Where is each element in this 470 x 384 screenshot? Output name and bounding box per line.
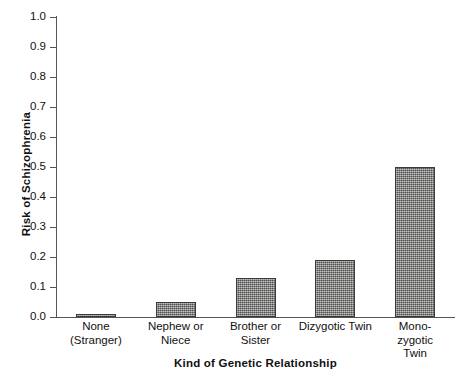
x-tick-label: Mono-zygoticTwin — [367, 320, 463, 361]
y-tick-label: 1.0 — [16, 11, 46, 23]
bars-layer — [56, 17, 455, 317]
x-tick-label-line: Mono- — [367, 320, 463, 334]
y-tick-label: 0.3 — [16, 221, 46, 233]
y-tick-label: 0.5 — [16, 161, 46, 173]
x-axis-line — [56, 317, 455, 318]
y-tick-label: 0.0 — [16, 311, 46, 323]
y-tick-label: 0.1 — [16, 281, 46, 293]
y-tick-label: 0.4 — [16, 191, 46, 203]
bar-chart-figure: Risk of Schizophrenia 1.00.90.80.70.60.5… — [0, 0, 470, 384]
y-tick-mark — [50, 317, 56, 318]
x-tick-label-line: Sister — [208, 334, 304, 348]
y-tick-label: 0.6 — [16, 131, 46, 143]
x-tick-label-line: zygotic — [367, 334, 463, 348]
y-tick-label: 0.9 — [16, 41, 46, 53]
bar — [395, 167, 435, 317]
y-tick-label: 0.7 — [16, 101, 46, 113]
y-tick-label: 0.8 — [16, 71, 46, 83]
x-axis-title: Kind of Genetic Relationship — [56, 357, 455, 369]
bar — [236, 278, 276, 317]
bar — [156, 302, 196, 317]
bar — [76, 314, 116, 317]
y-tick-label: 0.2 — [16, 251, 46, 263]
bar — [315, 260, 355, 317]
